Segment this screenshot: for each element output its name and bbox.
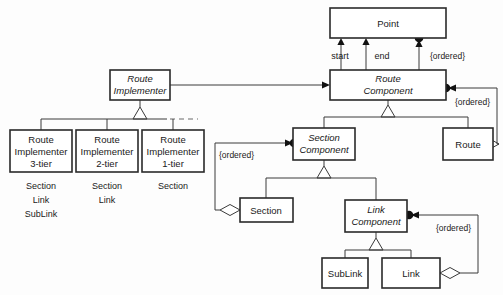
association-end [362,38,369,70]
class-label-route-implementer-line2: Implementer [114,85,168,96]
uml-class-diagram: Point Route Component Route Implementer … [0,0,503,295]
caption-impl3-line3: SubLink [25,209,58,219]
class-label-route-impl-1tier-line2: Implementer [147,146,200,157]
class-label-route-component-line2: Component [363,85,412,96]
class-box-route-implementer[interactable]: Route Implementer [110,70,170,100]
label-ordered-route: {ordered} [455,97,490,107]
class-box-route-implementer-1-tier[interactable]: Route Implementer 1-tier [142,130,204,172]
class-box-route[interactable]: Route [443,128,493,160]
class-label-section-component-line1: Section [308,132,340,143]
diagram-canvas: Point Route Component Route Implementer … [0,0,503,295]
class-box-section[interactable]: Section [240,198,293,222]
class-label-route-impl-3tier-line2: Implementer [15,146,68,157]
label-ordered-link: {ordered} [436,223,471,233]
generalization-route-component [324,100,468,128]
class-label-section-component-line2: Component [299,144,348,155]
class-label-route-impl-2tier-line2: Implementer [81,146,134,157]
class-box-section-component[interactable]: Section Component [293,128,355,160]
label-ordered-section: {ordered} [219,150,254,160]
class-label-route-impl-2tier-line1: Route [94,134,119,145]
caption-impl3-line1: Section [26,181,56,191]
label-start: start [331,51,349,61]
class-label-route-impl-1tier-line1: Route [160,134,185,145]
class-label-route-component-line1: Route [375,73,400,84]
label-ordered-point: {ordered} [430,51,465,61]
generalization-link-component [345,232,411,258]
class-label-route-impl-3tier-line3: 3-tier [30,158,52,169]
caption-route-implementer-1-tier: Section [158,181,188,191]
class-label-point: Point [377,18,399,29]
class-box-route-implementer-2-tier[interactable]: Route Implementer 2-tier [76,130,138,172]
class-label-route-impl-1tier-line3: 1-tier [162,158,184,169]
class-box-link-component[interactable]: Link Component [345,200,407,232]
label-end: end [374,51,389,61]
caption-impl2-line2: Link [99,195,116,205]
class-label-section: Section [250,205,282,216]
class-label-route-impl-2tier-line3: 2-tier [96,158,118,169]
class-label-link-component-line2: Component [351,216,400,227]
composition-route-component-point [415,34,424,70]
generalization-route-implementer [41,100,198,130]
class-label-route-implementer-line1: Route [127,73,152,84]
caption-route-implementer-2-tier: Section Link [92,181,122,205]
class-box-sublink[interactable]: SubLink [322,258,368,288]
class-label-route: Route [455,139,480,150]
caption-route-implementer-3-tier: Section Link SubLink [25,181,58,219]
class-box-route-implementer-3-tier[interactable]: Route Implementer 3-tier [10,130,72,172]
caption-impl1-line1: Section [158,181,188,191]
caption-impl3-line2: Link [33,195,50,205]
class-label-route-impl-3tier-line1: Route [28,134,53,145]
class-box-route-component[interactable]: Route Component [330,70,446,100]
class-label-sublink: SubLink [328,268,363,279]
caption-impl2-line1: Section [92,181,122,191]
generalization-section-component [266,160,376,200]
class-box-link[interactable]: Link [382,258,440,288]
class-label-link-component-line1: Link [367,204,386,215]
class-label-link: Link [402,268,420,279]
class-box-point[interactable]: Point [330,8,446,38]
association-route-implementer-route-component [170,81,330,88]
